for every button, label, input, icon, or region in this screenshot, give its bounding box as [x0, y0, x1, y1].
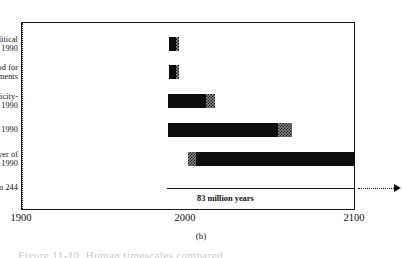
row-label-term-of-office: Term of office for political leaders ele… [0, 35, 18, 53]
xtick-label-2000: 2000 [175, 212, 196, 223]
chart-row-payback-period: Expected payback period for major corpor… [22, 57, 354, 87]
row-label-plant-operating-life: Operating life of an electricity- genera… [0, 92, 18, 110]
half-life-dotted-extension [358, 188, 396, 189]
annotation-83-million-years: 83 million years [197, 194, 254, 203]
bar-segment-uncertainty [206, 94, 215, 108]
bar-segment-solid [168, 94, 206, 108]
bar-segment-uncertainty [176, 65, 179, 79]
xtick-label-1900: 1900 [11, 212, 32, 223]
row-label-child-lifetime: Lifetime of a child born in 1990 [0, 125, 18, 134]
chart-row-plant-operating-life: Operating life of an electricity- genera… [22, 86, 354, 116]
chart-row-ozone-influence: Influence on the ozone layer of CFCs man… [22, 144, 354, 174]
row-label-payback-period: Expected payback period for major corpor… [0, 63, 18, 81]
bar-segment-uncertainty [176, 37, 179, 51]
chart-row-plutonium-half-life: Half-life of plutonium 244 83 million ye… [22, 173, 354, 203]
chart-row-child-lifetime: Lifetime of a child born in 1990 [22, 115, 354, 145]
half-life-solid-line [167, 188, 355, 189]
panel-label: (b) [0, 231, 402, 241]
bar-segment-solid [169, 65, 176, 79]
caption-partial: Figure 11-10. Human timescales compared [18, 249, 394, 258]
bar-segment-solid [169, 37, 176, 51]
plot-frame: Term of office for political leaders ele… [21, 22, 355, 210]
bar-segment-solid [196, 152, 355, 166]
xtick-label-2100: 2100 [344, 212, 365, 223]
bar-segment-uncertainty [278, 123, 292, 137]
arrow-head-icon [394, 184, 401, 192]
bar-segment-solid [168, 123, 278, 137]
row-label-ozone-influence: Influence on the ozone layer of CFCs man… [0, 150, 18, 168]
bar-segment-uncertainty [188, 152, 196, 166]
row-label-plutonium-half-life: Half-life of plutonium 244 [0, 183, 18, 192]
chart-row-term-of-office: Term of office for political leaders ele… [22, 29, 354, 59]
